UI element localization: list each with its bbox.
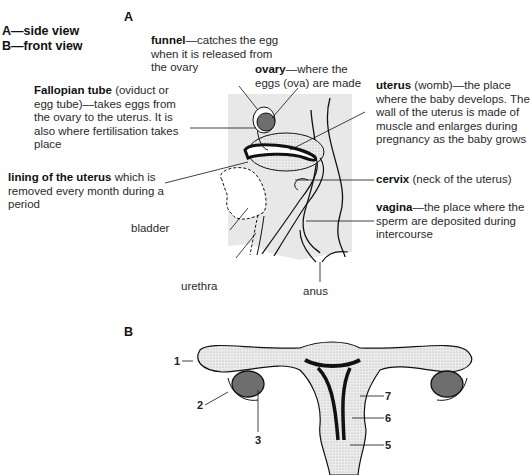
number-3: 3 [255, 434, 261, 446]
label-anus: anus [303, 285, 328, 299]
label-vagina: vagina—the place where the sperm are dep… [376, 201, 526, 242]
label-bladder: bladder [131, 222, 169, 236]
number-5: 5 [385, 439, 391, 451]
label-fallopian-tube: Fallopian tube (oviduct or egg tube)—tak… [34, 84, 184, 152]
label-lining-of-uterus: lining of the uterus which is removed ev… [8, 171, 168, 212]
label-cervix: cervix (neck of the uterus) [376, 173, 531, 187]
label-urethra: urethra [181, 280, 217, 294]
number-6: 6 [385, 412, 391, 424]
label-uterus: uterus (womb)—the place where the baby d… [376, 79, 531, 147]
front-view-diagram [182, 342, 472, 475]
number-7: 7 [385, 390, 391, 402]
number-1: 1 [174, 355, 180, 367]
number-2: 2 [197, 399, 203, 411]
label-ovary: ovary—where the eggs (ova) are made [255, 63, 375, 90]
